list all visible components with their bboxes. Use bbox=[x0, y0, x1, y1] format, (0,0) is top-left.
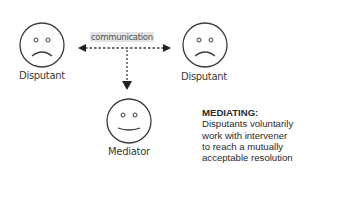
description-line: Disputants voluntarily bbox=[202, 118, 293, 129]
node-label-mediator: Mediator bbox=[108, 146, 150, 157]
arrowhead-down-icon bbox=[122, 81, 132, 90]
sad-face-icon bbox=[20, 23, 64, 67]
sad-face-icon bbox=[183, 23, 227, 67]
description-line: work with intervener bbox=[202, 130, 293, 141]
mediator-face-icon bbox=[107, 99, 151, 143]
edge-label-communication: communication bbox=[90, 32, 154, 42]
mediating-description: MEDIATING: Disputants voluntarily work w… bbox=[202, 107, 293, 163]
mediation-diagram bbox=[0, 0, 343, 204]
communication-arrow bbox=[78, 44, 171, 52]
description-title: MEDIATING: bbox=[202, 107, 293, 118]
arrowhead-left-icon bbox=[78, 44, 86, 52]
node-label-disputant-left: Disputant bbox=[19, 70, 65, 81]
arrowhead-right-icon bbox=[163, 44, 171, 52]
description-line: acceptable resolution bbox=[202, 152, 293, 163]
node-label-disputant-right: Disputant bbox=[181, 71, 227, 82]
description-line: to reach a mutually bbox=[202, 141, 293, 152]
mediator-arrow bbox=[122, 50, 132, 90]
